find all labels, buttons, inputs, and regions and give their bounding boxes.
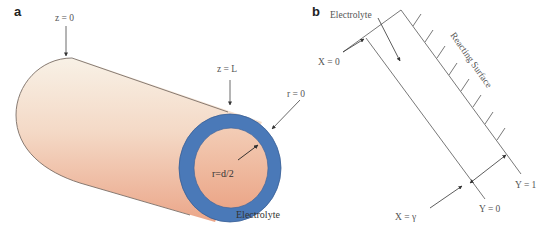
electrolyte-label-a: Electrolyte xyxy=(236,209,280,220)
electrolyte-label-b: Electrolyte xyxy=(330,10,372,20)
xgamma-arrow xyxy=(430,186,462,208)
diagram-canvas: z = 0 z = L r = 0 r=d/2 Electrolyte xyxy=(0,0,550,234)
r0-label: r = 0 xyxy=(287,89,305,99)
electrolyte-flow-arrow xyxy=(378,18,400,61)
y0-label: Y = 0 xyxy=(479,204,501,214)
y1-label: Y = 1 xyxy=(515,180,537,190)
x0-label: X = 0 xyxy=(318,57,340,67)
z0-label: z = 0 xyxy=(55,13,74,23)
channel-figure xyxy=(343,10,521,208)
zL-label: z = L xyxy=(217,64,237,74)
xgamma-label: X = γ xyxy=(395,212,416,222)
y-span-arrow xyxy=(470,155,506,183)
reacting-surface-wall xyxy=(401,10,521,174)
cylinder-figure: z = 0 z = L r = 0 r=d/2 Electrolyte xyxy=(16,13,305,222)
x0-arrow xyxy=(343,39,364,52)
reacting-surface-label: Reacting Surface xyxy=(448,30,494,89)
r0-arrow xyxy=(272,100,300,129)
radius-label: r=d/2 xyxy=(212,168,234,179)
